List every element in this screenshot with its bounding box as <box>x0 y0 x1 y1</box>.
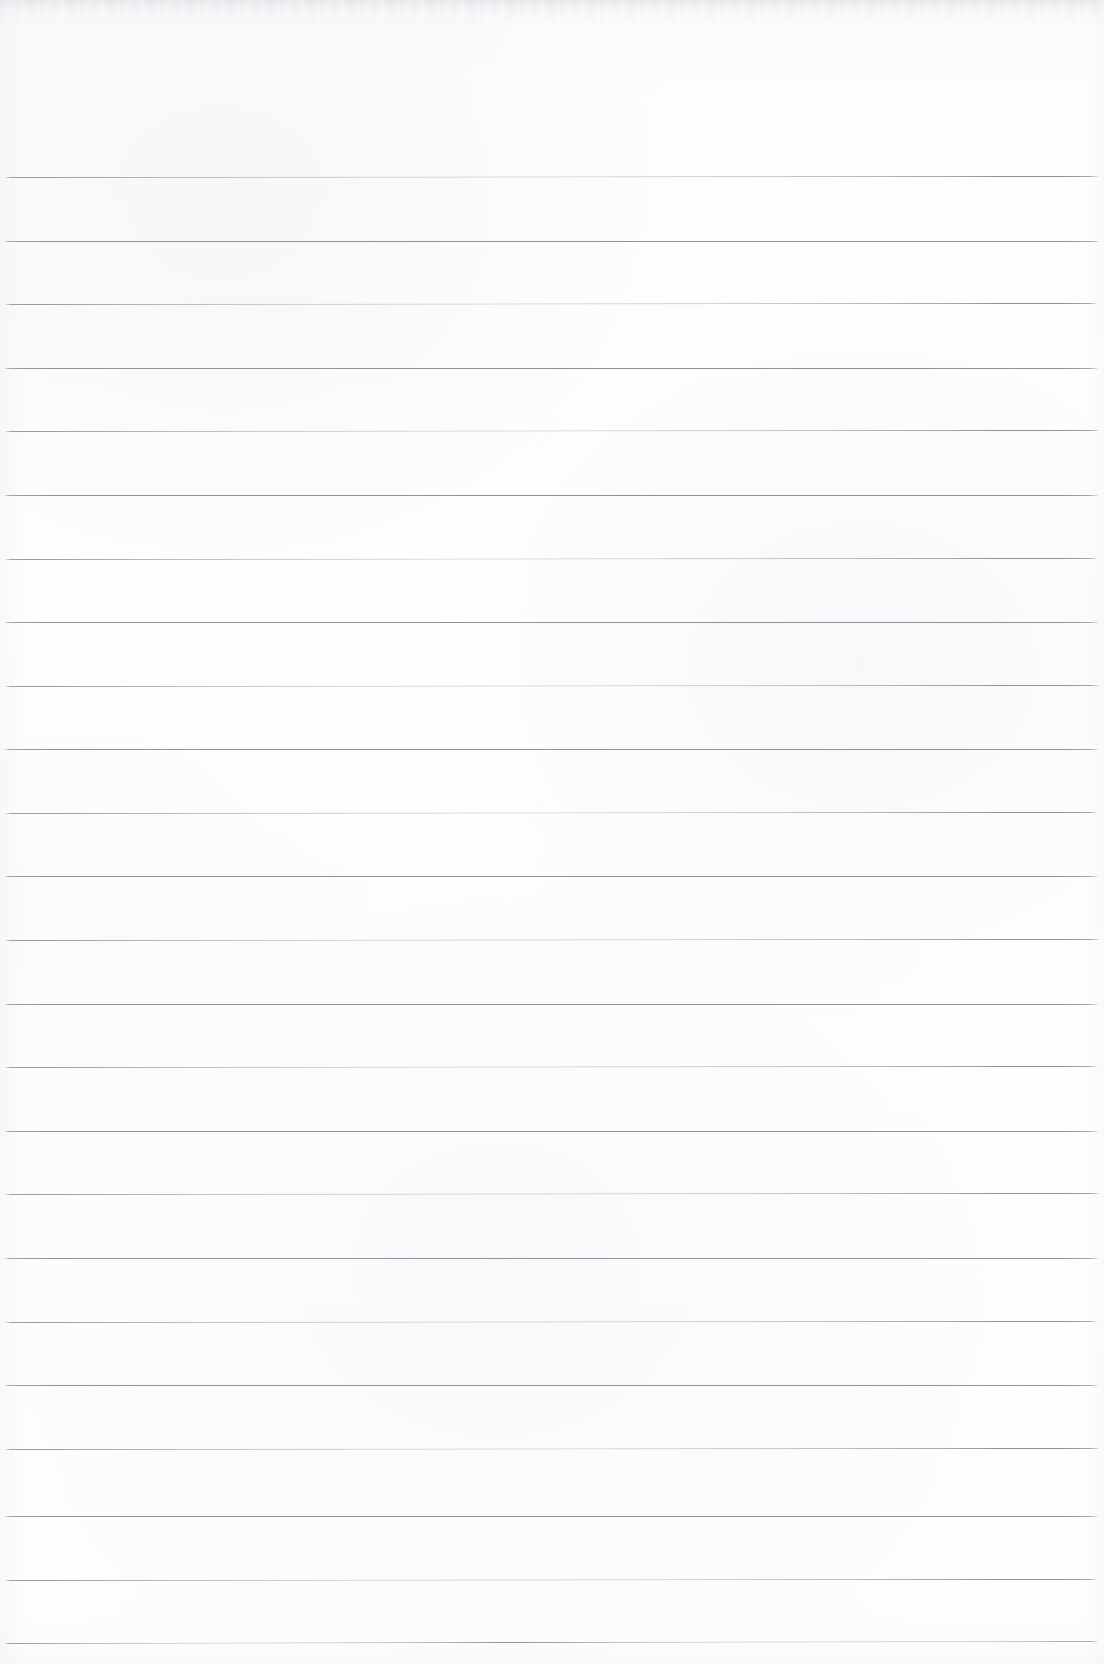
scanned-page <box>0 0 1104 1664</box>
writing-area[interactable] <box>4 177 1098 1643</box>
